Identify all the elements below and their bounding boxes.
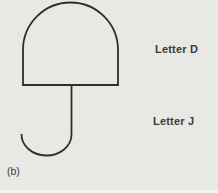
letter-j-shape xyxy=(21,86,71,156)
figure-panel: Letter D Letter J (b) xyxy=(0,0,218,193)
letter-j-label: Letter J xyxy=(153,115,194,127)
umbrella-diagram xyxy=(0,0,218,193)
letter-d-shape xyxy=(23,3,118,86)
letter-d-label: Letter D xyxy=(155,43,198,55)
page-edge-strip xyxy=(0,190,218,193)
figure-caption: (b) xyxy=(7,165,20,177)
